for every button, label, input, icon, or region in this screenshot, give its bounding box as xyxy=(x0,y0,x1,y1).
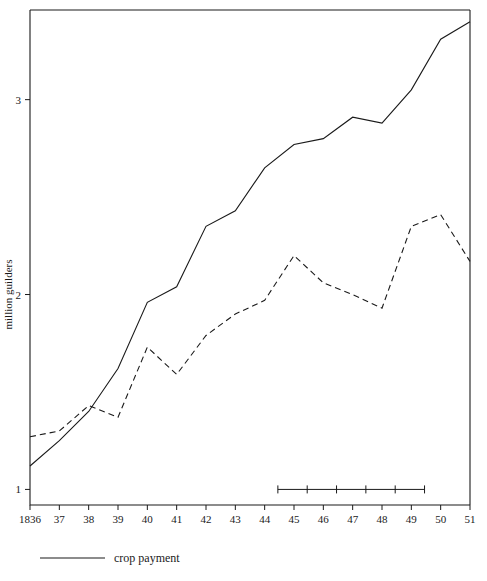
x-tick-label: 40 xyxy=(142,513,154,525)
series-line-2 xyxy=(30,215,470,437)
x-tick-label: 51 xyxy=(465,513,476,525)
y-tick-label: 2 xyxy=(16,289,22,301)
x-tick-label: 43 xyxy=(230,513,242,525)
x-tick-label: 38 xyxy=(83,513,95,525)
chart-figure: 123million guilders183637383940414243444… xyxy=(0,0,487,581)
y-tick-label: 1 xyxy=(16,483,22,495)
x-tick-label: 1836 xyxy=(19,513,42,525)
y-axis-title: million guilders xyxy=(2,260,14,330)
x-tick-label: 41 xyxy=(171,513,182,525)
x-tick-label: 50 xyxy=(435,513,447,525)
x-tick-label: 37 xyxy=(54,513,66,525)
x-tick-label: 46 xyxy=(318,513,330,525)
axis-frame xyxy=(30,10,470,505)
y-tick-label: 3 xyxy=(16,94,22,106)
x-tick-label: 48 xyxy=(377,513,389,525)
x-tick-label: 44 xyxy=(259,513,271,525)
x-tick-label: 49 xyxy=(406,513,418,525)
series-line-1 xyxy=(30,22,470,466)
legend-label-1: crop payment xyxy=(114,551,180,565)
x-tick-label: 45 xyxy=(289,513,301,525)
x-tick-label: 47 xyxy=(347,513,359,525)
x-tick-label: 39 xyxy=(113,513,125,525)
x-tick-label: 42 xyxy=(201,513,212,525)
line-chart: 123million guilders183637383940414243444… xyxy=(0,0,487,581)
